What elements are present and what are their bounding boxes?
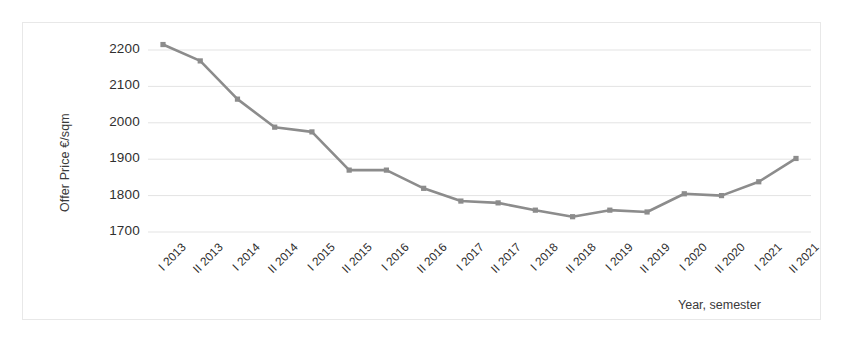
data-point-marker xyxy=(309,129,314,134)
data-point-marker xyxy=(607,208,612,213)
data-point-marker xyxy=(682,191,687,196)
data-point-marker xyxy=(421,186,426,191)
data-point-marker xyxy=(793,156,798,161)
line-chart-plot xyxy=(0,0,843,339)
data-point-marker xyxy=(384,168,389,173)
data-point-marker xyxy=(756,179,761,184)
data-point-marker xyxy=(533,208,538,213)
data-point-marker xyxy=(235,97,240,102)
data-point-marker xyxy=(644,209,649,214)
data-point-markers xyxy=(160,42,798,219)
gridlines xyxy=(148,50,811,232)
data-point-marker xyxy=(719,193,724,198)
data-point-marker xyxy=(496,200,501,205)
data-point-marker xyxy=(347,168,352,173)
data-point-marker xyxy=(570,214,575,219)
x-axis-title: Year, semester xyxy=(678,298,761,312)
data-point-marker xyxy=(458,198,463,203)
data-point-marker xyxy=(160,42,165,47)
data-point-marker xyxy=(272,125,277,130)
data-line-offer-price xyxy=(163,45,796,217)
data-point-marker xyxy=(198,58,203,63)
